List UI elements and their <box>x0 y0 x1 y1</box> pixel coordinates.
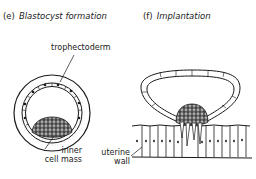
uterine-nuclei <box>136 139 243 144</box>
blastocyst-diagram <box>14 55 90 151</box>
diagram-canvas <box>0 0 256 179</box>
implantation-diagram <box>131 70 252 158</box>
inner-cell-mass <box>32 117 72 137</box>
uterine-wall-leader <box>131 147 142 156</box>
uterine-wall-bottom <box>132 157 252 158</box>
